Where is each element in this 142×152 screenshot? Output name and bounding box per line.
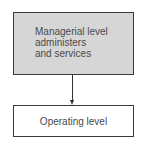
managerial-level-node: Managerial level administers and service… <box>13 12 134 75</box>
operating-level-label: Operating level <box>14 116 133 127</box>
managerial-label-line-1: Managerial level <box>35 26 108 37</box>
managerial-label-line-2: administers <box>35 37 108 48</box>
operating-level-node: Operating level <box>13 105 134 137</box>
managerial-level-label: Managerial level administers and service… <box>35 26 108 59</box>
connector-line <box>72 75 73 101</box>
managerial-label-line-3: and services <box>35 48 108 59</box>
